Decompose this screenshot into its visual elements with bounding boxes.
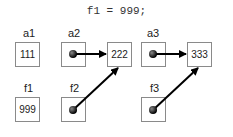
arrow-f3 <box>149 68 198 114</box>
arrow-a2 <box>69 50 106 58</box>
arrow-f2 <box>69 68 118 114</box>
arrow-a3 <box>149 50 186 58</box>
pointer-arrows <box>0 0 233 137</box>
